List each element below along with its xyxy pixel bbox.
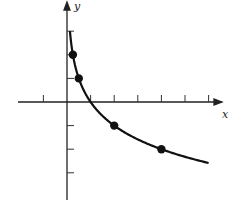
x-axis-label: x [222,108,229,121]
data-point [75,74,83,82]
data-point [110,121,118,129]
data-point [157,145,165,153]
data-point [69,51,77,59]
y-axis-label: y [73,0,81,13]
axes [18,2,222,200]
graph: x y [0,0,240,203]
x-arrow-icon [214,99,222,105]
y-arrow-icon [64,2,70,10]
